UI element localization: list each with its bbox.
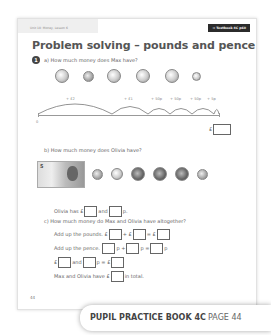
label: p =	[140, 245, 149, 251]
coin-10p-icon	[111, 168, 123, 180]
pence-input-2[interactable]	[126, 243, 139, 254]
book-page-label: PAGE 44	[208, 313, 242, 322]
label: = £	[147, 231, 156, 237]
hop-label: + 50p	[190, 97, 201, 101]
page-number: 44	[30, 295, 35, 300]
coin-20p-icon	[92, 169, 103, 180]
pounds-total-input[interactable]	[157, 229, 170, 240]
workbook-page: Unit 10: Money, Lesson 6 → Textbook 4C p…	[17, 18, 257, 310]
label: Add up the pence.	[54, 245, 100, 251]
pence-sum-row: Add up the pence. p +p =p	[54, 243, 168, 254]
note-value-mark: 5	[40, 163, 43, 169]
question-c-prompt: c) How much money do Max and Olivia have…	[44, 218, 186, 224]
number-line	[38, 115, 219, 116]
question-b-prompt: b) How much money does Olivia have?	[44, 147, 142, 153]
label: Max and Olivia have £	[54, 273, 110, 279]
grand-total-input[interactable]	[111, 271, 124, 282]
label: Add up the pounds.	[54, 231, 103, 237]
label: p.	[123, 208, 128, 214]
total-row: Max and Olivia have £in total.	[54, 271, 144, 282]
combine-pence-input[interactable]	[83, 257, 96, 268]
coin-1-pound-icon	[175, 167, 189, 181]
pound-sign: £	[209, 126, 212, 132]
combine-pounds-input[interactable]	[58, 257, 71, 268]
hop-label: + 50p	[151, 97, 162, 101]
pounds-sum-row: Add up the pounds. £+ £= £	[54, 229, 171, 240]
book-title: PUPIL PRACTICE BOOK 4C	[90, 313, 206, 322]
label: and	[98, 208, 107, 214]
note-portrait	[67, 166, 78, 181]
olivia-pounds-input[interactable]	[84, 206, 97, 217]
pounds-input-2[interactable]	[133, 229, 146, 240]
number-line-tick	[219, 113, 220, 117]
pence-total-input[interactable]	[150, 243, 163, 254]
label: £	[54, 259, 57, 265]
number-line-tick	[38, 113, 39, 117]
label: £	[105, 231, 108, 237]
label: and	[72, 259, 81, 265]
olivia-answer-row: Olivia has £andp.	[54, 206, 128, 217]
coin-1-pound-icon	[131, 167, 145, 181]
number-line-start-label: 0	[36, 120, 38, 124]
coin-1-pound-icon	[153, 167, 167, 181]
max-total-input[interactable]	[213, 124, 231, 135]
five-pound-note-icon: 5	[37, 161, 85, 188]
max-total-row: £	[209, 124, 232, 135]
label: p = £	[97, 259, 111, 265]
book-page-tab: PUPIL PRACTICE BOOK 4C PAGE 44	[80, 305, 271, 331]
hop-label: + 50p	[170, 97, 181, 101]
combine-row: £andp = £	[54, 257, 125, 268]
hop-label: + £1	[124, 97, 133, 101]
coin-5p-icon	[197, 169, 208, 180]
label: in total.	[125, 273, 144, 279]
label: Olivia has £	[54, 208, 83, 214]
combine-total-input[interactable]	[111, 257, 124, 268]
hop-label: + 5p	[207, 97, 216, 101]
hop-label: + £2	[66, 97, 75, 101]
olivia-pence-input[interactable]	[109, 206, 122, 217]
label: p +	[116, 245, 125, 251]
label: + £	[123, 231, 132, 237]
pence-input-1[interactable]	[102, 243, 115, 254]
label: p	[164, 245, 167, 251]
pounds-input-1[interactable]	[109, 229, 122, 240]
